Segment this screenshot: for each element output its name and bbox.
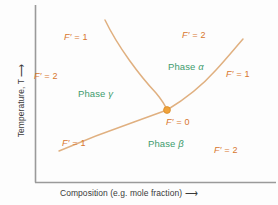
phase-diagram-figure: F′ = 1 F′ = 2 F′ = 2 F′ = 1 F′ = 0 F′ = … bbox=[0, 0, 278, 205]
phase-diagram-canvas bbox=[0, 0, 278, 205]
curve-gamma-alpha-boundary bbox=[105, 20, 167, 110]
triple-point-marker bbox=[164, 107, 171, 114]
curve-gamma-beta-boundary bbox=[59, 110, 167, 151]
curve-alpha-beta-boundary bbox=[167, 39, 243, 110]
